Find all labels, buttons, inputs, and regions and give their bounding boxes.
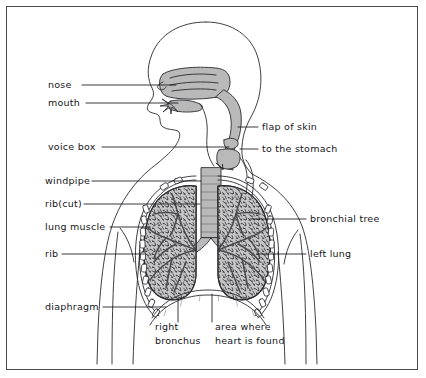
label-nose: nose	[48, 79, 72, 90]
label-lung-muscle: lung muscle	[45, 221, 105, 232]
label-rib-cut: rib(cut)	[45, 198, 82, 209]
label-right-bronchus-line1: right	[155, 321, 179, 332]
label-heart-area-line2: heart is found	[215, 335, 285, 346]
label-voice-box: voice box	[48, 141, 96, 152]
respiratory-system-illustration: nose mouth voice box windpipe rib(cut) l…	[0, 0, 426, 378]
label-rib: rib	[45, 248, 58, 259]
label-to-the-stomach: to the stomach	[262, 143, 337, 154]
label-left-lung: left lung	[310, 248, 351, 259]
label-bronchial-tree: bronchial tree	[310, 213, 380, 224]
label-heart-area-line1: area where	[215, 321, 271, 332]
label-right-bronchus-line2: bronchus	[155, 335, 201, 346]
label-diaphragm: diaphragm	[45, 301, 99, 312]
label-flap-of-skin: flap of skin	[262, 121, 317, 132]
diagram-canvas: nose mouth voice box windpipe rib(cut) l…	[0, 0, 426, 378]
label-mouth: mouth	[48, 97, 80, 108]
label-windpipe: windpipe	[45, 175, 90, 186]
